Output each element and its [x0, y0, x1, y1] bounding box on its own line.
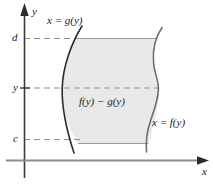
up-arrow-icon: [20, 3, 28, 16]
tick-label-y: y: [13, 82, 18, 93]
right-arrow-icon: [197, 156, 209, 165]
tick-label-c: c: [13, 133, 18, 144]
region-difference-label: f(y) − g(y): [79, 96, 125, 107]
figure-canvas: [0, 0, 213, 184]
figure-region-between-curves: y x d y c x = g(y) x = f(y) f(y) − g(y): [0, 0, 213, 184]
curve-f-label: x = f(y): [152, 117, 185, 128]
y-axis-label: y: [32, 6, 37, 17]
tick-label-d: d: [12, 32, 18, 43]
curve-g-label: x = g(y): [47, 15, 83, 26]
x-axis-label: x: [202, 166, 207, 177]
shaded-region: [62, 39, 159, 144]
